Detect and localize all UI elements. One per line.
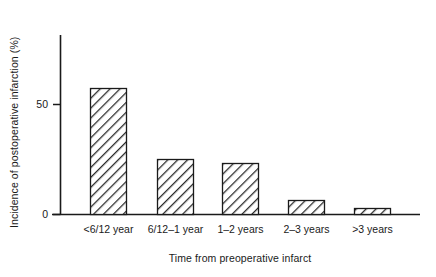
y-tick-label-50: 50 <box>20 98 48 110</box>
bar-1 <box>158 160 194 215</box>
y-axis-title: Incidence of postoperative infarction (%… <box>4 13 24 228</box>
bar-2 <box>223 164 259 215</box>
x-category-label-4: >3 years <box>330 223 415 235</box>
bar-0 <box>91 89 127 215</box>
bar-chart-figure: 50 0 Incidence of postoperative infarcti… <box>0 0 436 277</box>
bar-3 <box>289 201 325 215</box>
chart-plot-area <box>0 0 436 277</box>
x-axis-title: Time from preoperative infarct <box>60 252 420 264</box>
bar-4 <box>355 209 391 215</box>
bar-series <box>91 89 391 215</box>
y-tick-label-0: 0 <box>20 208 48 220</box>
